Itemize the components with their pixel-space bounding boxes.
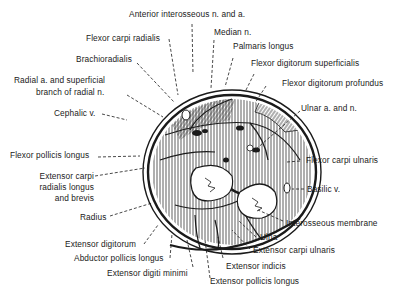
label-extensor-digiti-minimi: Extensor digiti minimi [107, 269, 188, 278]
label-interosseous-membrane: Interosseous membrane [286, 219, 378, 228]
label-ecrl-line2: radialis longus [30, 183, 94, 192]
label-extensor-digitorum: Extensor digitorum [65, 240, 136, 249]
label-extensor-indicis: Extensor indicis [226, 262, 286, 271]
forearm-cross-section-diagram [0, 0, 399, 291]
label-radius: Radius [80, 213, 106, 222]
label-abductor-pollicis-longus: Abductor pollicis longus [74, 254, 164, 263]
label-ecrl-line3: and brevis [30, 194, 94, 203]
label-cephalic-vein: Cephalic v. [54, 109, 96, 118]
label-basilic-vein: Basilic v. [307, 185, 340, 194]
label-flexor-digitorum-profundus: Flexor digitorum profundus [282, 79, 383, 88]
label-ulnar-artery-nerve: Ulnar a. and n. [301, 104, 357, 113]
ulna-bone [237, 184, 276, 218]
label-palmaris-longus: Palmaris longus [233, 42, 294, 51]
label-flexor-pollicis-longus: Flexor pollicis longus [10, 151, 89, 160]
ulnar-nerve-shape [247, 145, 253, 151]
label-anterior-interosseous: Anterior interosseous n. and a. [129, 10, 245, 19]
label-ulna: Ulna [260, 233, 277, 242]
label-ecrl-line1: Extensor carpi [30, 172, 94, 181]
label-extensor-pollicis-longus: Extensor pollicis longus [210, 277, 299, 286]
label-extensor-carpi-ulnaris: Extensor carpi ulnaris [253, 246, 335, 255]
label-radial-artery-line1: Radial a. and superficial [14, 76, 105, 85]
basilic-vein-shape [284, 183, 290, 193]
label-median-nerve: Median n. [214, 28, 251, 37]
cephalic-vein-shape [182, 110, 190, 120]
label-flexor-carpi-radialis: Flexor carpi radialis [86, 34, 160, 43]
label-flexor-digitorum-superficialis: Flexor digitorum superficialis [251, 59, 359, 68]
label-radial-artery-line2: branch of radial n. [36, 88, 104, 97]
label-flexor-carpi-ulnaris: Flexor carpi ulnaris [306, 156, 378, 165]
label-brachioradialis: Brachioradialis [76, 55, 132, 64]
radius-bone [191, 165, 233, 201]
